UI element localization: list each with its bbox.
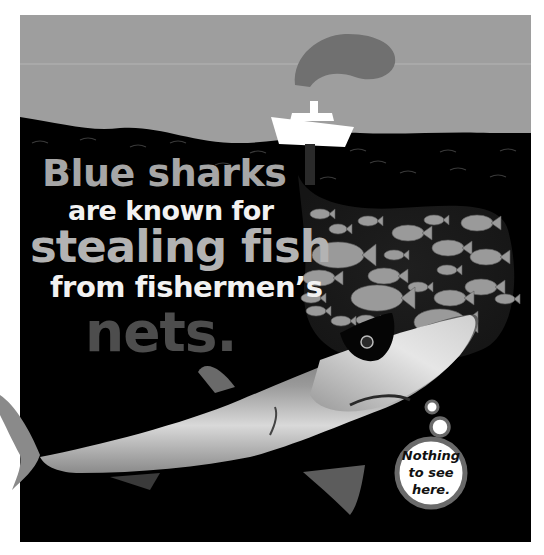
illustration-panel: Blue sharks are known for stealing fish … xyxy=(20,15,531,542)
headline-line-1: Blue sharks xyxy=(42,151,287,195)
thought-line-3: here. xyxy=(401,481,461,498)
thought-line-2: to see xyxy=(401,464,461,481)
thought-bubble-text: Nothing to see here. xyxy=(401,447,461,498)
headline-line-3: stealing fish xyxy=(30,220,331,273)
headline-line-5: nets. xyxy=(85,300,236,364)
shark-eye xyxy=(361,336,373,348)
headline-line-4: from fishermen’s xyxy=(50,270,322,304)
thought-dot-medium xyxy=(431,418,449,436)
shark-tail xyxy=(0,0,60,555)
thought-dot-small xyxy=(426,401,438,413)
thought-line-1: Nothing xyxy=(401,447,461,464)
